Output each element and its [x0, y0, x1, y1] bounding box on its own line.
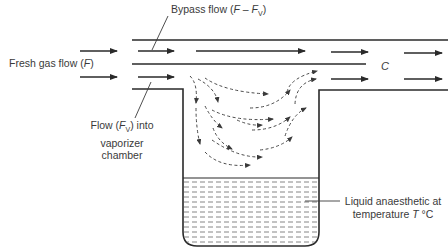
liquid-anaesthetic-label: Liquid anaesthetic at temperature T °C [339, 195, 447, 220]
flow-into-line3: chamber [84, 149, 160, 162]
flow-into-chamber-label: Flow (FV) into vaporizer chamber [84, 119, 160, 162]
outlet-concentration-label: C [381, 60, 389, 73]
bypass-flow-label: Bypass flow (F – FV) [171, 3, 266, 21]
liquid-temp-suffix: °C [419, 208, 434, 220]
flow-into-line1: Flow (FV) into [84, 119, 160, 137]
fresh-gas-prefix: Fresh gas flow ( [9, 57, 84, 69]
fresh-gas-flow-label: Fresh gas flow (F) [9, 57, 94, 70]
liquid-temp-prefix: temperature [353, 208, 413, 220]
fresh-gas-suffix: ) [90, 57, 94, 69]
liquid-line1: Liquid anaesthetic at [339, 195, 447, 208]
flow-into-line2: vaporizer [84, 137, 160, 150]
flow-into-prefix: Flow ( [90, 119, 119, 131]
vapour-flow-arrows [190, 71, 317, 165]
bypass-prefix: Bypass flow ( [171, 3, 233, 15]
liquid-line2: temperature T °C [339, 208, 447, 221]
leader-lines [135, 16, 340, 201]
flow-into-suffix: ) into [130, 119, 153, 131]
bypass-minus: – [240, 3, 252, 15]
liquid-anaesthetic [184, 179, 318, 245]
bypass-suffix: ) [263, 3, 267, 15]
